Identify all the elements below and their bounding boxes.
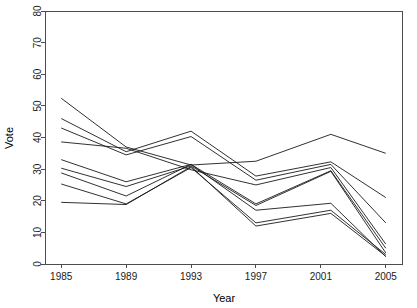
y-axis-title: Vote — [3, 127, 15, 149]
x-tick-label: 1993 — [180, 271, 203, 282]
y-tick-label: 50 — [32, 100, 43, 112]
y-tick-label: 60 — [32, 68, 43, 80]
x-tick-label: 1985 — [50, 271, 73, 282]
axis-labels-group: 0102030405060708019851989199319972001200… — [32, 5, 398, 282]
chart-container: 0102030405060708019851989199319972001200… — [0, 0, 417, 308]
x-tick-label: 1989 — [115, 271, 138, 282]
x-axis-title: Year — [213, 292, 236, 304]
series-line — [61, 142, 386, 244]
series-line — [61, 98, 386, 165]
y-tick-label: 10 — [32, 226, 43, 238]
y-tick-label: 20 — [32, 195, 43, 207]
x-tick-label: 1997 — [245, 271, 268, 282]
line-chart: 0102030405060708019851989199319972001200… — [0, 0, 417, 308]
axes-group — [41, 11, 402, 268]
series-line — [61, 128, 386, 223]
y-tick-label: 70 — [32, 37, 43, 49]
x-tick-label: 2005 — [375, 271, 398, 282]
y-tick-label: 30 — [32, 163, 43, 175]
x-tick-label: 2001 — [310, 271, 333, 282]
y-tick-label: 80 — [32, 5, 43, 17]
y-tick-label: 0 — [32, 261, 43, 267]
series-line — [61, 164, 386, 256]
y-tick-label: 40 — [32, 132, 43, 144]
series-group — [61, 98, 386, 256]
